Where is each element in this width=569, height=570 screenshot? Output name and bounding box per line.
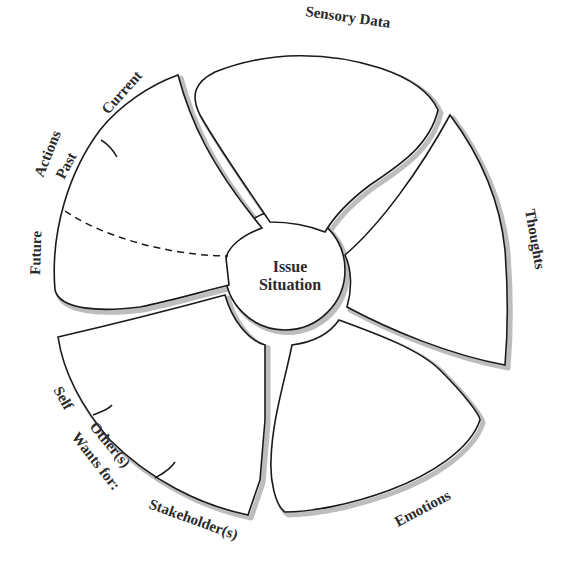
label-sensory-data: Sensory Data: [305, 3, 392, 31]
label-emotions: Emotions: [392, 487, 453, 530]
label-wants-self: Self: [50, 384, 76, 414]
awareness-wheel-diagram: Issue Situation Sensory Data Thoughts Em…: [0, 0, 569, 570]
center-label-line2: Situation: [259, 276, 321, 293]
label-thoughts: Thoughts: [522, 208, 548, 271]
label-actions-future: Future: [27, 230, 45, 275]
center-label-line1: Issue: [273, 258, 308, 275]
